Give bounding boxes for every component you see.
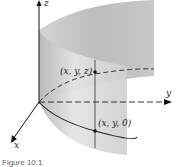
y-axis-arrowhead <box>164 99 172 105</box>
figure-caption: Figure 10.1 <box>2 158 42 167</box>
y-axis-label: y <box>166 89 171 98</box>
point-xyz-label: (x, y, z) <box>60 67 92 76</box>
x-axis <box>13 102 39 139</box>
cylinder-diagram <box>0 0 178 167</box>
point-xy0 <box>93 129 97 133</box>
z-axis-arrowhead <box>37 0 42 6</box>
point-xyz <box>93 70 97 74</box>
point-xy0-label: (x, y, 0) <box>98 119 131 128</box>
x-axis-label: x <box>14 141 19 150</box>
z-axis-label: z <box>44 0 49 8</box>
